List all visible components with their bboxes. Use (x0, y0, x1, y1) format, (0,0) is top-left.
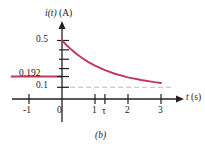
x-axis-title: t (s) (186, 93, 201, 103)
y-axis-arg: (t) (48, 8, 57, 18)
y-axis-arrow (59, 21, 66, 29)
y-axis-unit: (A) (59, 8, 72, 18)
y-tick-label-0: 0.5 (36, 35, 48, 45)
panel-label: (b) (95, 131, 106, 141)
x-tick-label-2: 2 (125, 106, 130, 116)
figure-panel: i(t) (A) t (s) 0.5 0.192 0.1 -1 0 1 τ 2 … (0, 0, 205, 150)
x-tick-label-1: 1 (92, 106, 97, 116)
y-tick-label-5: 0.1 (36, 81, 48, 91)
x-tick-label-0: 0 (57, 106, 62, 116)
x-axis-var: t (186, 92, 189, 102)
y-tick-label-4: 0.192 (19, 69, 40, 79)
y-tick-marks (57, 41, 69, 88)
x-tick-label-3: 3 (158, 106, 163, 116)
x-axis-unit: (s) (191, 92, 201, 102)
x-tick-label-tau: τ (102, 107, 106, 117)
x-tick-label-neg1: -1 (23, 106, 31, 116)
y-axis-title: i(t) (A) (45, 9, 72, 19)
decay-curve (62, 41, 161, 83)
x-axis-arrow (176, 96, 184, 103)
